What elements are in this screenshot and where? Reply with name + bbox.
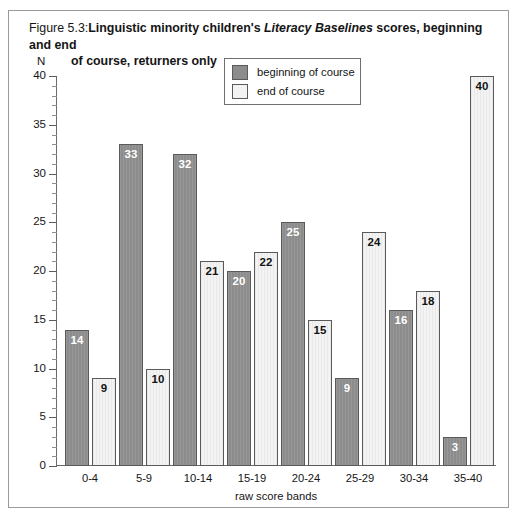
bar-value-label: 21 bbox=[201, 265, 223, 277]
bar[interactable]: 15 bbox=[308, 320, 332, 466]
bar[interactable]: 25 bbox=[281, 222, 305, 466]
legend-label: beginning of course bbox=[257, 66, 355, 78]
x-axis-tick-label: 30-34 bbox=[384, 472, 444, 484]
bar[interactable]: 18 bbox=[416, 291, 440, 467]
bar-value-label: 22 bbox=[255, 256, 277, 268]
figure-number: Figure 5.3: bbox=[29, 21, 88, 35]
x-axis-tick-label: 35-40 bbox=[438, 472, 498, 484]
bar-value-label: 10 bbox=[147, 373, 169, 385]
bar-value-label: 40 bbox=[471, 80, 493, 92]
y-axis-tick-label: 25 bbox=[18, 216, 46, 227]
bar[interactable]: 24 bbox=[362, 232, 386, 466]
bar-group: 1618 bbox=[389, 76, 440, 466]
bar[interactable]: 40 bbox=[470, 76, 494, 466]
legend-swatch-icon bbox=[232, 65, 248, 80]
x-axis-tick-label: 20-24 bbox=[276, 472, 336, 484]
bar-group: 924 bbox=[335, 76, 386, 466]
bar-group: 149 bbox=[65, 76, 116, 466]
legend-label: end of course bbox=[257, 85, 325, 97]
bar-value-label: 3 bbox=[444, 441, 466, 453]
legend-swatch-icon bbox=[232, 84, 248, 99]
y-axis-tick-label: 30 bbox=[18, 168, 46, 179]
y-axis-tick-label: 40 bbox=[18, 70, 46, 81]
bar-group: 2515 bbox=[281, 76, 332, 466]
bar-group: 3310 bbox=[119, 76, 170, 466]
bar-group: 2022 bbox=[227, 76, 278, 466]
bar-value-label: 9 bbox=[93, 382, 115, 394]
y-axis-major-tick bbox=[49, 466, 57, 467]
figure-frame: Figure 5.3:Linguistic minority children'… bbox=[8, 10, 509, 508]
bar-value-label: 24 bbox=[363, 236, 385, 248]
bar[interactable]: 16 bbox=[389, 310, 413, 466]
x-axis-tick-label: 25-29 bbox=[330, 472, 390, 484]
y-axis-tick-label: 5 bbox=[18, 411, 46, 422]
bar[interactable]: 3 bbox=[443, 437, 467, 466]
bar-value-label: 33 bbox=[120, 148, 142, 160]
bar-value-label: 14 bbox=[66, 334, 88, 346]
bar[interactable]: 10 bbox=[146, 369, 170, 467]
bar-value-label: 20 bbox=[228, 275, 250, 287]
x-axis-tick-label: 10-14 bbox=[168, 472, 228, 484]
y-axis-tick-labels: 0510152025303540 bbox=[16, 76, 46, 466]
x-axis-label: raw score bands bbox=[56, 490, 496, 502]
chart-legend: beginning of course end of course bbox=[224, 58, 361, 105]
bar[interactable]: 9 bbox=[92, 378, 116, 466]
bars-layer: 14933103221202225159241618340 bbox=[56, 76, 496, 466]
bar[interactable]: 22 bbox=[254, 252, 278, 467]
y-axis-tick-label: 0 bbox=[18, 460, 46, 471]
bar-value-label: 15 bbox=[309, 324, 331, 336]
bar-value-label: 16 bbox=[390, 314, 412, 326]
bar[interactable]: 9 bbox=[335, 378, 359, 466]
bar[interactable]: 20 bbox=[227, 271, 251, 466]
bar-group: 340 bbox=[443, 76, 494, 466]
x-axis-tick-labels: 0-45-910-1415-1920-2425-2930-3435-40 bbox=[56, 472, 496, 490]
bar[interactable]: 32 bbox=[173, 154, 197, 466]
x-axis-tick-label: 0-4 bbox=[60, 472, 120, 484]
y-axis-tick-label: 20 bbox=[18, 265, 46, 276]
bar[interactable]: 33 bbox=[119, 144, 143, 466]
y-axis-tick-label: 35 bbox=[18, 119, 46, 130]
figure-title-part1: Linguistic minority children's bbox=[88, 21, 264, 35]
bar-value-label: 9 bbox=[336, 382, 358, 394]
y-axis-label: N bbox=[37, 55, 45, 67]
plot-area: 0510152025303540 14933103221202225159241… bbox=[56, 76, 496, 474]
bar-group: 3221 bbox=[173, 76, 224, 466]
y-axis-tick-label: 10 bbox=[18, 363, 46, 374]
x-axis-tick-label: 15-19 bbox=[222, 472, 282, 484]
bar-value-label: 32 bbox=[174, 158, 196, 170]
bar-value-label: 18 bbox=[417, 295, 439, 307]
bar[interactable]: 14 bbox=[65, 330, 89, 467]
figure-title-italic: Literacy Baselines bbox=[264, 21, 373, 35]
x-axis-tick-label: 5-9 bbox=[114, 472, 174, 484]
bar[interactable]: 21 bbox=[200, 261, 224, 466]
bar-value-label: 25 bbox=[282, 226, 304, 238]
y-axis-tick-label: 15 bbox=[18, 314, 46, 325]
